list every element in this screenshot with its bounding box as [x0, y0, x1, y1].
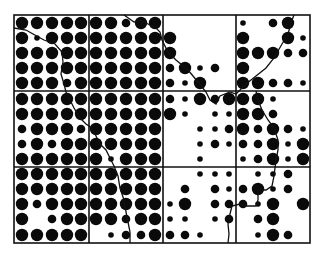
dot	[75, 47, 87, 59]
dot	[31, 168, 43, 180]
dot	[75, 183, 87, 195]
dot	[31, 183, 43, 195]
dot	[122, 231, 131, 240]
dot	[284, 170, 293, 179]
dot	[75, 198, 87, 210]
dot	[135, 183, 147, 195]
dot	[77, 125, 86, 134]
dot	[90, 183, 102, 195]
dot	[75, 168, 87, 180]
dot	[254, 215, 263, 224]
dot	[212, 171, 218, 177]
dot	[284, 79, 293, 88]
dot	[46, 123, 58, 135]
dot	[61, 168, 73, 180]
dot	[135, 213, 147, 225]
dot	[226, 141, 232, 147]
dot	[149, 108, 161, 120]
dot	[179, 198, 191, 210]
dot	[284, 49, 293, 58]
dot	[105, 17, 117, 29]
dot	[269, 19, 278, 28]
dot	[226, 186, 232, 192]
dot	[105, 32, 117, 44]
dot	[90, 168, 102, 180]
dot	[61, 198, 73, 210]
dot	[135, 153, 147, 165]
dot	[252, 47, 264, 59]
dot	[120, 77, 132, 89]
dot	[31, 47, 43, 59]
dot	[197, 126, 203, 132]
dot	[211, 185, 220, 194]
dot	[120, 123, 132, 135]
dot	[75, 93, 87, 105]
dot	[90, 62, 102, 74]
dot	[135, 62, 147, 74]
dot	[61, 213, 73, 225]
dot	[285, 141, 291, 147]
dot	[135, 47, 147, 59]
dot	[120, 93, 132, 105]
dot	[284, 185, 293, 194]
dot	[75, 153, 87, 165]
dot	[108, 232, 114, 238]
dot	[75, 213, 87, 225]
dot	[284, 125, 293, 134]
dot	[46, 47, 58, 59]
dot	[46, 198, 58, 210]
dot	[75, 229, 87, 241]
dot	[16, 93, 28, 105]
dot	[167, 216, 173, 222]
dot	[212, 126, 218, 132]
dot	[75, 32, 87, 44]
dot	[197, 65, 203, 71]
dot	[122, 19, 131, 28]
dot	[120, 138, 132, 150]
dot	[31, 229, 43, 241]
dot	[167, 201, 173, 207]
dot	[135, 138, 147, 150]
dot	[237, 32, 249, 44]
dot	[16, 168, 28, 180]
dot	[300, 35, 306, 41]
dot	[226, 171, 232, 177]
dot	[166, 231, 175, 240]
dot	[16, 229, 28, 241]
dot	[267, 229, 279, 241]
dot	[237, 123, 249, 135]
dot	[48, 140, 57, 149]
dot	[16, 47, 28, 59]
dot	[90, 213, 102, 225]
dot	[300, 80, 306, 86]
dot	[164, 108, 176, 120]
dot	[255, 232, 261, 238]
dot	[105, 47, 117, 59]
dot	[269, 110, 278, 119]
dot	[105, 198, 117, 210]
dot	[149, 77, 161, 89]
dot	[135, 123, 147, 135]
dot	[16, 62, 28, 74]
dot	[90, 198, 102, 210]
dot	[46, 62, 58, 74]
dot	[197, 232, 203, 238]
dot	[31, 108, 43, 120]
dot	[31, 93, 43, 105]
dot	[46, 153, 58, 165]
dot	[46, 77, 58, 89]
dot	[135, 198, 147, 210]
dot	[135, 77, 147, 89]
dot	[255, 171, 261, 177]
dot	[182, 216, 188, 222]
dot	[237, 108, 249, 120]
dot	[61, 138, 73, 150]
dot	[211, 64, 220, 73]
dot	[300, 126, 306, 132]
dot	[31, 77, 43, 89]
dot	[149, 183, 161, 195]
dot	[31, 62, 43, 74]
dot	[31, 17, 43, 29]
dot	[90, 123, 102, 135]
dot	[149, 138, 161, 150]
